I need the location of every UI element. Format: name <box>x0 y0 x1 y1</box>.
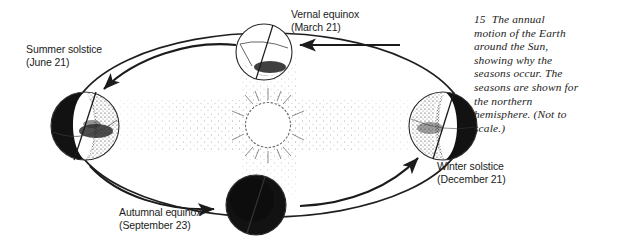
caption-line-8: hemisphere. (Not to <box>474 108 626 122</box>
figure-caption: 15 The annual motion of the Earth around… <box>474 13 626 135</box>
caption-line-6: seasons are shown for <box>474 81 626 95</box>
caption-line-2: motion of the Earth <box>474 27 626 41</box>
caption-line-9: scale.) <box>474 122 626 136</box>
label-autumnal-equinox: Autumnal equinox (September 23) <box>119 206 202 231</box>
label-vernal-equinox-date: (March 21) <box>291 21 341 33</box>
caption-line-1: 15 The annual <box>474 13 626 27</box>
caption-line-5: seasons occur. The <box>474 67 626 81</box>
label-winter-solstice: Winter solstice (December 21) <box>437 160 506 185</box>
label-winter-solstice-name: Winter solstice <box>437 160 504 172</box>
arrow-to-summer-solstice <box>104 44 236 89</box>
figure-page: Vernal equinox (March 21) Summer solstic… <box>0 0 633 247</box>
label-vernal-equinox: Vernal equinox (March 21) <box>291 8 360 33</box>
arrow-to-autumnal-equinox <box>90 166 214 209</box>
label-summer-solstice-name: Summer solstice <box>26 43 102 55</box>
label-vernal-equinox-name: Vernal equinox <box>291 8 360 20</box>
label-autumnal-equinox-name: Autumnal equinox <box>119 206 202 218</box>
label-autumnal-equinox-date: (September 23) <box>119 219 191 231</box>
caption-line-4: showing why the <box>474 54 626 68</box>
label-summer-solstice: Summer solstice (June 21) <box>26 43 102 68</box>
earth-autumnal-equinox <box>226 175 286 235</box>
caption-line-3: around the Sun, <box>474 40 626 54</box>
label-winter-solstice-date: (December 21) <box>437 173 506 185</box>
caption-line-7: the northern <box>474 95 626 109</box>
label-summer-solstice-date: (June 21) <box>26 56 69 68</box>
arrow-to-winter-solstice <box>300 158 418 206</box>
